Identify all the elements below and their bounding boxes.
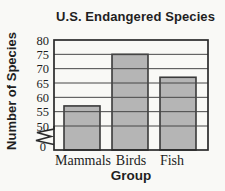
bar-chart-svg: 050556065707580MammalsBirdsFish <box>0 0 225 191</box>
y-tick-55: 55 <box>37 105 50 119</box>
bar-mammals <box>64 106 100 150</box>
y-tick-70: 70 <box>37 62 50 76</box>
y-tick-0: 0 <box>40 140 46 154</box>
bar-fish <box>160 77 196 150</box>
x-tick-mammals: Mammals <box>55 153 111 168</box>
y-tick-75: 75 <box>37 48 50 62</box>
y-tick-80: 80 <box>37 34 50 48</box>
x-tick-fish: Fish <box>160 153 184 168</box>
x-tick-birds: Birds <box>116 153 146 168</box>
chart-figure: U.S. Endangered Species Number of Specie… <box>0 0 225 191</box>
x-axis-label: Group <box>54 168 208 183</box>
y-tick-50: 50 <box>37 120 50 134</box>
y-tick-60: 60 <box>37 91 50 105</box>
y-tick-65: 65 <box>37 77 50 91</box>
